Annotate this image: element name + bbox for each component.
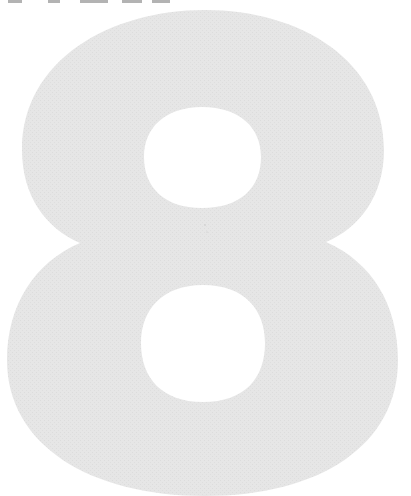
- large-numeral-eight: [0, 0, 411, 496]
- scanned-page: 8: [0, 0, 411, 496]
